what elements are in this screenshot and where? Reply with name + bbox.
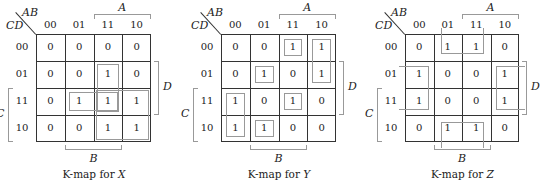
row-variables-label: CD	[6, 19, 23, 32]
grouping-loop	[255, 120, 274, 137]
variable-d-bracket	[154, 61, 159, 115]
row-header: 00	[12, 41, 32, 52]
row-header: 11	[197, 95, 217, 106]
grouping-loop	[441, 28, 484, 54]
row-variables-label: CD	[191, 19, 208, 32]
grouping-loop	[255, 66, 274, 83]
kmap-caption: K-map for Z	[372, 168, 543, 180]
row-header: 01	[381, 68, 401, 79]
kmap-cell: 0	[405, 122, 434, 133]
kmap-cell: 0	[36, 41, 65, 52]
column-header: 00	[221, 19, 250, 30]
variable-b-label: B	[90, 152, 98, 165]
kmap-cell: 0	[462, 68, 491, 79]
caption-output-variable: Y	[303, 168, 310, 180]
variable-c-label: C	[0, 107, 4, 120]
grid-line	[37, 88, 150, 89]
variable-a-label: A	[487, 1, 495, 14]
kmap-x: ABCD00011110000111100000001001110011ABCD…	[0, 0, 181, 186]
variable-a-bracket	[94, 14, 152, 19]
kmap-cell: 0	[491, 41, 520, 52]
column-header: 11	[94, 19, 123, 30]
kmap-cell: 0	[65, 41, 94, 52]
caption-output-variable: X	[118, 168, 125, 180]
row-header: 10	[197, 122, 217, 133]
kmap-cell: 0	[94, 41, 123, 52]
variable-d-label: D	[163, 80, 172, 93]
kmap-caption: K-map for Y	[189, 168, 370, 180]
kmap-cell: 0	[221, 41, 250, 52]
grouping-loop	[496, 66, 526, 110]
variable-c-bracket	[377, 88, 382, 142]
variable-b-label: B	[458, 152, 466, 165]
column-header: 10	[307, 19, 336, 30]
grid-line	[222, 88, 335, 89]
kmap-cell: 0	[65, 68, 94, 79]
kmap-cell: 0	[36, 122, 65, 133]
variable-c-label: C	[365, 107, 373, 120]
kmap-cell: 0	[279, 68, 308, 79]
grouping-loop	[226, 93, 245, 137]
variable-b-bracket	[65, 145, 123, 150]
variable-b-label: B	[275, 152, 283, 165]
column-header: 11	[279, 19, 308, 30]
row-header: 11	[12, 95, 32, 106]
grouping-loop	[284, 93, 303, 110]
kmap-cell: 0	[462, 95, 491, 106]
variable-b-bracket	[434, 145, 491, 150]
row-header: 10	[12, 122, 32, 133]
variable-b-bracket	[250, 145, 308, 150]
caption-prefix: K-map for	[248, 168, 303, 180]
variable-a-bracket	[279, 14, 337, 19]
column-header: 01	[250, 19, 279, 30]
kmap-cell: 0	[122, 68, 151, 79]
kmap-cell: 0	[434, 95, 463, 106]
caption-output-variable: Z	[487, 168, 494, 180]
variable-d-bracket	[339, 61, 344, 115]
variable-d-bracket	[522, 61, 527, 115]
kmap-cell: 0	[307, 95, 336, 106]
variable-c-bracket	[8, 88, 13, 142]
grouping-loop	[284, 39, 303, 56]
column-variables-label: AB	[22, 6, 38, 19]
grid-line	[406, 115, 518, 116]
kmap-cell: 0	[250, 41, 279, 52]
row-header: 00	[381, 41, 401, 52]
kmap-cell: 0	[405, 41, 434, 52]
column-variables-label: AB	[207, 6, 223, 19]
row-header: 00	[197, 41, 217, 52]
kmap-cell: 0	[122, 41, 151, 52]
kmap-cell: 0	[65, 122, 94, 133]
column-header: 01	[65, 19, 94, 30]
variable-a-label: A	[118, 1, 126, 14]
grouping-loop	[312, 39, 331, 83]
kmap-cell: 0	[279, 122, 308, 133]
column-header: 00	[405, 19, 434, 30]
row-header: 10	[381, 122, 401, 133]
row-header: 11	[381, 95, 401, 106]
row-header: 01	[197, 68, 217, 79]
kmap-cell: 0	[434, 68, 463, 79]
variable-c-label: C	[181, 107, 189, 120]
grouping-loop	[399, 66, 429, 110]
variable-d-label: D	[348, 80, 357, 93]
column-header: 10	[122, 19, 151, 30]
kmap-y: ABCD00011110000111100011010110101100ABCD…	[181, 0, 362, 186]
variable-a-bracket	[462, 14, 519, 19]
variable-d-label: D	[531, 80, 540, 93]
variable-a-label: A	[303, 1, 311, 14]
variable-c-bracket	[193, 88, 198, 142]
column-variables-label: AB	[391, 6, 407, 19]
kmap-z: ABCD00011110000111100110100110010110ABCD…	[362, 0, 543, 186]
caption-prefix: K-map for	[431, 168, 486, 180]
caption-prefix: K-map for	[63, 168, 118, 180]
column-header: 00	[36, 19, 65, 30]
kmap-cell: 0	[36, 68, 65, 79]
grouping-loop	[96, 90, 150, 140]
kmap-cell: 0	[250, 95, 279, 106]
kmap-cell: 0	[36, 95, 65, 106]
column-header: 10	[491, 19, 520, 30]
kmap-cell: 0	[307, 122, 336, 133]
kmap-cell: 0	[491, 122, 520, 133]
row-header: 01	[12, 68, 32, 79]
